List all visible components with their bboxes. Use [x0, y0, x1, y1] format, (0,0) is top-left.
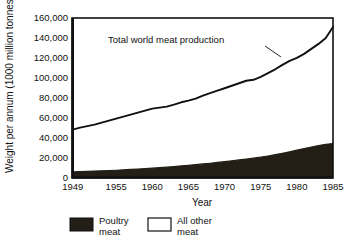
y-tick-label: 40,000	[39, 132, 68, 143]
chart-legend: Poultry meat All other meat	[70, 215, 212, 237]
x-tick-label: 1970	[214, 181, 235, 192]
legend-label-all-other-meat-line1: All other	[177, 215, 212, 226]
y-tick-label: 140,000	[34, 32, 68, 43]
legend-label-poultry-meat-line1: Poultry	[99, 215, 129, 226]
y-tick-label: 80,000	[39, 92, 68, 103]
legend-swatch-poultry-meat	[70, 218, 93, 231]
x-tick-label: 1960	[142, 181, 163, 192]
legend-label-all-other-meat-line2: meat	[177, 226, 198, 237]
y-axis-title: Weight per annum (1000 million tonnes)	[4, 0, 15, 173]
y-tick-label: 60,000	[39, 112, 68, 123]
y-tick-label: 20,000	[39, 152, 68, 163]
x-tick-label: 1980	[286, 181, 307, 192]
meat-production-area-chart: 020,00040,00060,00080,000100,000120,0001…	[0, 0, 351, 249]
chart-figure: 020,00040,00060,00080,000100,000120,0001…	[0, 0, 351, 249]
total-production-annotation: Total world meat production	[108, 34, 224, 45]
x-tick-label: 1949	[62, 181, 83, 192]
x-tick-label: 1975	[250, 181, 271, 192]
y-tick-label: 100,000	[34, 72, 68, 83]
legend-label-poultry-meat-line2: meat	[99, 226, 120, 237]
x-tick-label: 1955	[106, 181, 127, 192]
legend-swatch-all-other-meat	[148, 218, 171, 231]
y-tick-label: 160,000	[34, 12, 68, 23]
y-axis-ticks: 020,00040,00060,00080,000100,000120,0001…	[34, 12, 68, 182]
y-tick-label: 120,000	[34, 52, 68, 63]
x-axis-title: Year	[192, 197, 213, 208]
x-tick-label: 1965	[178, 181, 199, 192]
x-axis-ticks: 19491955196019651970197519801985	[62, 181, 343, 192]
x-tick-label: 1985	[322, 181, 343, 192]
